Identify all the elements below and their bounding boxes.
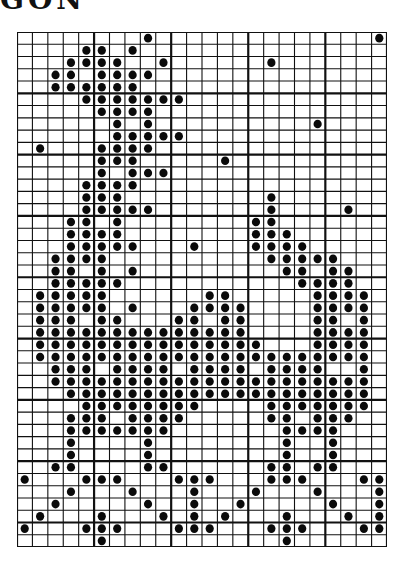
stitch-dot: [252, 377, 260, 386]
stitch-dot: [375, 488, 383, 497]
stitch-dot: [283, 463, 291, 472]
stitch-dot: [51, 353, 59, 362]
stitch-dot: [129, 267, 137, 276]
stitch-dot: [98, 193, 106, 202]
stitch-dot: [344, 205, 352, 214]
stitch-dot: [267, 414, 275, 423]
stitch-dot: [82, 279, 90, 288]
stitch-dot: [329, 353, 337, 362]
stitch-dot: [67, 304, 75, 313]
stitch-dot: [144, 365, 152, 374]
stitch-dot: [98, 95, 106, 104]
stitch-dot: [82, 46, 90, 55]
stitch-grid: [17, 32, 387, 547]
stitch-dot: [51, 328, 59, 337]
stitch-dot: [221, 353, 229, 362]
stitch-dot: [129, 488, 137, 497]
stitch-dot: [36, 144, 44, 153]
stitch-dot: [344, 512, 352, 521]
stitch-dot: [67, 340, 75, 349]
stitch-dot: [190, 524, 198, 533]
stitch-dot: [113, 193, 121, 202]
stitch-dot: [144, 377, 152, 386]
stitch-dot: [129, 132, 137, 141]
stitch-dot: [144, 205, 152, 214]
stitch-dot: [82, 255, 90, 264]
stitch-dot: [267, 524, 275, 533]
stitch-dot: [314, 463, 322, 472]
stitch-dot: [113, 132, 121, 141]
stitch-dot: [283, 451, 291, 460]
stitch-dot: [375, 512, 383, 521]
stitch-dot: [113, 120, 121, 129]
stitch-dot: [360, 353, 368, 362]
stitch-dot: [129, 46, 137, 55]
stitch-dot: [129, 353, 137, 362]
stitch-dot: [298, 402, 306, 411]
stitch-dot: [360, 328, 368, 337]
stitch-dot: [82, 389, 90, 398]
stitch-dot: [129, 169, 137, 178]
stitch-dot: [283, 426, 291, 435]
stitch-dot: [360, 316, 368, 325]
stitch-dot: [129, 156, 137, 165]
stitch-dot: [283, 524, 291, 533]
stitch-dot: [129, 304, 137, 313]
stitch-dot: [51, 279, 59, 288]
stitch-dot: [190, 353, 198, 362]
stitch-dot: [98, 353, 106, 362]
stitch-dot: [267, 389, 275, 398]
stitch-dot: [129, 402, 137, 411]
stitch-dot: [206, 291, 214, 300]
stitch-dot: [144, 389, 152, 398]
stitch-dot: [221, 365, 229, 374]
stitch-dot: [98, 475, 106, 484]
stitch-dot: [175, 328, 183, 337]
stitch-dot: [267, 377, 275, 386]
stitch-dot: [283, 475, 291, 484]
stitch-dot: [360, 365, 368, 374]
stitch-dot: [267, 58, 275, 67]
stitch-dot: [206, 524, 214, 533]
stitch-dot: [144, 426, 152, 435]
stitch-dot: [190, 316, 198, 325]
stitch-dot: [98, 389, 106, 398]
stitch-dot: [82, 328, 90, 337]
stitch-dot: [175, 132, 183, 141]
stitch-dot: [314, 389, 322, 398]
stitch-dot: [314, 377, 322, 386]
stitch-dot: [283, 255, 291, 264]
stitch-dot: [175, 95, 183, 104]
stitch-dot: [252, 389, 260, 398]
stitch-dot: [221, 340, 229, 349]
stitch-dot: [267, 205, 275, 214]
stitch-dot: [113, 524, 121, 533]
stitch-dot: [82, 58, 90, 67]
stitch-dot: [236, 340, 244, 349]
stitch-dot: [113, 475, 121, 484]
stitch-dot: [314, 255, 322, 264]
stitch-dot: [206, 475, 214, 484]
stitch-dot: [113, 353, 121, 362]
stitch-dot: [113, 181, 121, 190]
stitch-dot: [144, 107, 152, 116]
stitch-dot: [344, 291, 352, 300]
stitch-dot: [236, 304, 244, 313]
stitch-dot: [314, 120, 322, 129]
stitch-dot: [67, 279, 75, 288]
stitch-dot: [159, 132, 167, 141]
stitch-dot: [298, 255, 306, 264]
stitch-dot: [267, 255, 275, 264]
stitch-dot: [360, 291, 368, 300]
stitch-dot: [129, 365, 137, 374]
stitch-dot: [190, 488, 198, 497]
stitch-dot: [329, 377, 337, 386]
stitch-dot: [298, 377, 306, 386]
stitch-dot: [360, 304, 368, 313]
stitch-dot: [98, 242, 106, 251]
stitch-dot: [252, 488, 260, 497]
stitch-dot: [67, 71, 75, 80]
stitch-dot: [159, 95, 167, 104]
stitch-dot: [67, 83, 75, 92]
stitch-dot: [236, 389, 244, 398]
